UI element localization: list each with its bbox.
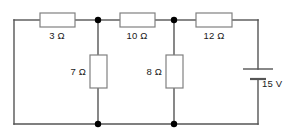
resistor-7-ohm-label: 7 Ω [64,67,86,77]
resistor-3-ohm-body [40,13,75,27]
resistor-8-ohm-body [166,55,183,88]
resistor-10-ohm-body [120,13,155,27]
resistor-3-ohm-label: 3 Ω [49,31,65,41]
circuit-diagram: 3 Ω 10 Ω 12 Ω 7 Ω 8 Ω 15 V [0,0,295,134]
resistor-7-ohm-body [90,55,107,88]
junction-node-top-left [95,17,101,23]
resistor-12-ohm-label: 12 Ω [203,31,224,41]
battery-voltage-label: 15 V [262,79,282,89]
junction-node-top-right [171,17,177,23]
resistor-8-ohm-label: 8 Ω [140,67,162,77]
junction-node-bottom-left [95,121,101,127]
junction-node-bottom-right [171,121,177,127]
resistor-12-ohm-body [196,13,232,27]
resistor-10-ohm-label: 10 Ω [126,31,147,41]
